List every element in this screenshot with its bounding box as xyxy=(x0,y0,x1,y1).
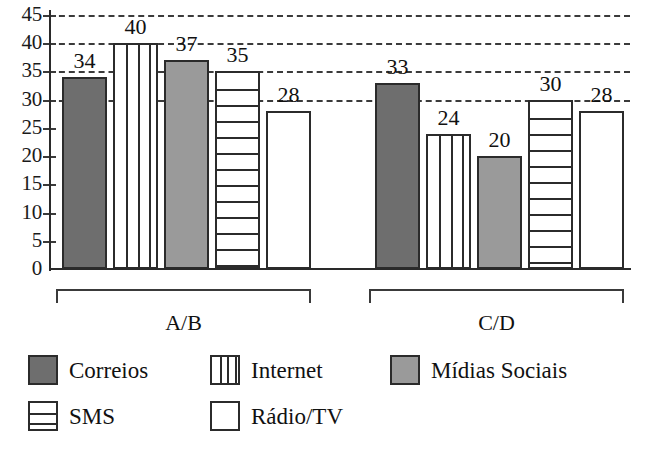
bar-pattern-line xyxy=(138,45,140,267)
y-axis-tick-label: 25 xyxy=(21,117,42,138)
legend-swatch xyxy=(210,355,240,385)
y-axis-tick-label: 15 xyxy=(21,173,42,194)
bar-pattern-line xyxy=(462,136,464,267)
legend-item: SMS xyxy=(28,398,115,434)
bar xyxy=(528,100,573,269)
bar-pattern-line xyxy=(530,118,571,120)
bar-pattern-line xyxy=(217,217,258,219)
bar-pattern-line xyxy=(530,214,571,216)
y-axis-tick-label: 10 xyxy=(21,202,42,223)
bar xyxy=(164,60,209,269)
bar-pattern-line xyxy=(530,166,571,168)
y-axis-tick-label: 5 xyxy=(32,230,42,251)
group-label: C/D xyxy=(369,312,624,334)
bar-pattern-line xyxy=(530,262,571,264)
bar-chart: 051015202530354045 34403735283324203028 … xyxy=(0,0,651,450)
group-bracket xyxy=(369,289,624,303)
y-axis-tick-label: 35 xyxy=(21,60,42,81)
bar-value-label: 28 xyxy=(258,84,319,106)
bar-pattern-line xyxy=(530,230,571,232)
y-axis-line xyxy=(49,10,51,271)
bar-pattern-line xyxy=(451,136,453,267)
bar-pattern-line xyxy=(530,150,571,152)
group-bracket xyxy=(56,289,311,303)
chart-legend: CorreiosInternetMídias SociaisSMSRádio/T… xyxy=(0,352,651,450)
plot-area: 34403735283324203028 xyxy=(49,15,630,269)
bar-pattern-line xyxy=(217,249,258,251)
legend-label: Correios xyxy=(69,359,148,382)
legend-label: Rádio/TV xyxy=(251,405,343,428)
y-axis-tick-label: 40 xyxy=(21,32,42,53)
bar-value-label: 34 xyxy=(54,50,115,72)
bar-value-label: 24 xyxy=(418,107,479,129)
legend-item: Internet xyxy=(210,352,323,388)
bar-pattern-line xyxy=(530,246,571,248)
x-axis-line xyxy=(49,268,631,270)
bar-pattern-line xyxy=(530,182,571,184)
bar-pattern-line xyxy=(530,198,571,200)
group-label: A/B xyxy=(56,312,311,334)
bar xyxy=(266,111,311,269)
legend-pattern-line xyxy=(30,413,56,415)
legend-pattern-line xyxy=(220,357,222,383)
legend-pattern-line xyxy=(30,423,56,425)
bar-pattern-line xyxy=(217,169,258,171)
y-axis-tick-label: 0 xyxy=(32,258,42,279)
bar xyxy=(215,71,260,269)
bar xyxy=(113,43,158,269)
bar-pattern-line xyxy=(217,233,258,235)
bar-value-label: 35 xyxy=(207,44,268,66)
y-axis-tick-label: 30 xyxy=(21,89,42,110)
bar xyxy=(62,77,107,269)
legend-pattern-line xyxy=(235,357,237,383)
bar-pattern-line xyxy=(149,45,151,267)
bar xyxy=(375,83,420,269)
legend-pattern-line xyxy=(227,357,229,383)
legend-item: Rádio/TV xyxy=(210,398,343,434)
y-axis-tick-label: 45 xyxy=(21,4,42,25)
legend-swatch xyxy=(390,355,420,385)
bar-pattern-line xyxy=(217,185,258,187)
legend-swatch xyxy=(28,401,58,431)
bar xyxy=(579,111,624,269)
bar-pattern-line xyxy=(217,137,258,139)
legend-row: SMSRádio/TV xyxy=(0,398,651,438)
bar-pattern-line xyxy=(530,134,571,136)
legend-swatch xyxy=(210,401,240,431)
y-axis-tick-label: 20 xyxy=(21,145,42,166)
bar-value-label: 20 xyxy=(469,129,530,151)
legend-row: CorreiosInternetMídias Sociais xyxy=(0,352,651,392)
bar-pattern-line xyxy=(217,89,258,91)
bar-pattern-line xyxy=(217,201,258,203)
legend-label: Mídias Sociais xyxy=(431,359,567,382)
bar-pattern-line xyxy=(126,45,128,267)
legend-label: SMS xyxy=(69,405,115,428)
bar-pattern-line xyxy=(217,105,258,107)
legend-item: Correios xyxy=(28,352,148,388)
legend-swatch xyxy=(28,355,58,385)
legend-label: Internet xyxy=(251,359,323,382)
bar-value-label: 28 xyxy=(571,84,632,106)
bar-value-label: 33 xyxy=(367,56,428,78)
bar xyxy=(477,156,522,269)
legend-item: Mídias Sociais xyxy=(390,352,567,388)
bar-pattern-line xyxy=(439,136,441,267)
bar-pattern-line xyxy=(217,153,258,155)
bar xyxy=(426,134,471,269)
bar-pattern-line xyxy=(217,121,258,123)
